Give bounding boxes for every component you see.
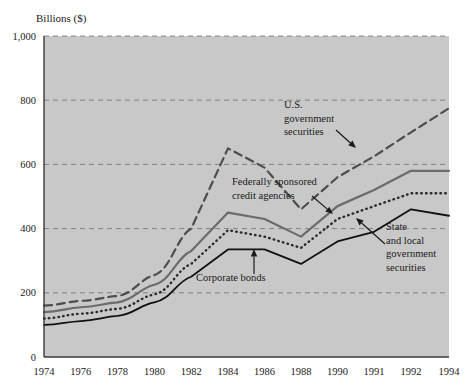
- line-chart-svg: 02004006008001,000 197419761978198019821…: [0, 0, 473, 391]
- annotation-label-us-gov-securities: securities: [284, 126, 324, 137]
- annotation-label-state-local: and local: [386, 235, 424, 246]
- y-tick-label-400: 400: [20, 223, 36, 234]
- y-tick-label-200: 200: [20, 287, 36, 298]
- annotation-label-federally-sponsored: Federally sponsored: [232, 176, 318, 187]
- annotation-label-corporate-bonds: Corporate bonds: [196, 272, 266, 283]
- x-tick-label-1994: 1994: [439, 366, 461, 377]
- y-tick-label-600: 600: [20, 159, 36, 170]
- y-axis-title: Billions ($): [36, 12, 87, 25]
- x-tick-label-1976: 1976: [70, 366, 91, 377]
- x-tick-label-1982: 1982: [181, 366, 202, 377]
- annotation-label-state-local: securities: [386, 262, 426, 273]
- y-tick-label-800: 800: [20, 95, 36, 106]
- x-tick-label-1991: 1991: [364, 366, 385, 377]
- y-tick-label-0: 0: [31, 352, 36, 363]
- chart-figure: 02004006008001,000 197419761978198019821…: [0, 0, 473, 391]
- annotation-label-federally-sponsored: credit agencies: [232, 190, 295, 201]
- annotation-label-state-local: State: [386, 221, 407, 232]
- x-tick-label-1990: 1990: [327, 366, 348, 377]
- x-tick-label-1974: 1974: [34, 366, 56, 377]
- x-tick-label-1984: 1984: [218, 366, 240, 377]
- y-tick-label-1000: 1,000: [12, 31, 36, 42]
- annotation-label-us-gov-securities: U.S.: [284, 99, 303, 110]
- annotation-label-state-local: government: [386, 248, 436, 259]
- annotation-label-us-gov-securities: government: [284, 113, 334, 124]
- x-tick-label-1980: 1980: [144, 366, 165, 377]
- x-tick-label-1978: 1978: [107, 366, 128, 377]
- x-tick-label-1986: 1986: [254, 366, 275, 377]
- x-tick-label-1992: 1992: [401, 366, 422, 377]
- x-tick-label-1988: 1988: [291, 366, 312, 377]
